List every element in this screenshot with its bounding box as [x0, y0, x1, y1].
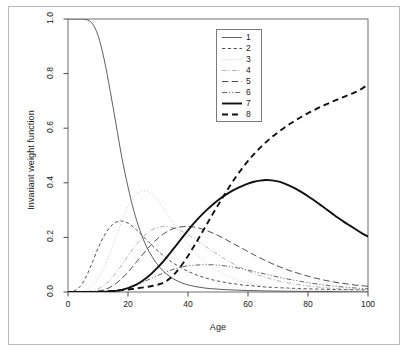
legend-item-3: 3	[217, 54, 263, 65]
legend-item-7: 7	[217, 98, 263, 109]
y-axis-title: Invariant weight function	[26, 65, 36, 255]
legend-line-sample-6	[221, 87, 243, 98]
legend-line-sample-7	[221, 98, 243, 109]
x-tick-label: 60	[233, 299, 263, 309]
legend-line-sample-4	[221, 65, 243, 76]
legend-item-1: 1	[217, 32, 263, 43]
y-tick-label: 0.6	[45, 115, 55, 139]
legend-label-7: 7	[246, 98, 251, 109]
y-tick-label: 0.0	[45, 279, 55, 303]
x-tick-label: 100	[353, 299, 383, 309]
legend-item-5: 5	[217, 76, 263, 87]
series-line-4	[68, 226, 368, 292]
legend-item-6: 6	[217, 87, 263, 98]
legend-label-3: 3	[246, 54, 251, 65]
legend-line-sample-2	[221, 43, 243, 54]
x-tick-label: 80	[293, 299, 323, 309]
legend-label-2: 2	[246, 43, 251, 54]
legend-item-8: 8	[217, 109, 263, 120]
legend-label-6: 6	[246, 87, 251, 98]
y-tick-label: 0.4	[45, 170, 55, 194]
x-tick-label: 40	[173, 299, 203, 309]
legend-line-sample-8	[221, 109, 243, 120]
x-axis-title: Age	[68, 322, 368, 332]
legend-line-sample-5	[221, 76, 243, 87]
legend-line-sample-3	[221, 54, 243, 65]
series-line-5	[68, 226, 368, 292]
x-tick-label: 20	[113, 299, 143, 309]
y-tick-label: 0.8	[45, 61, 55, 85]
legend-line-sample-1	[221, 32, 243, 43]
chart-legend: 12345678	[216, 29, 262, 122]
y-tick-label: 0.2	[45, 224, 55, 248]
series-line-2	[68, 221, 368, 292]
legend-label-5: 5	[246, 76, 251, 87]
series-line-7	[68, 180, 368, 292]
legend-item-2: 2	[217, 43, 263, 54]
legend-label-4: 4	[246, 65, 251, 76]
legend-label-1: 1	[246, 32, 251, 43]
legend-label-8: 8	[246, 109, 251, 120]
y-tick-label: 1.0	[45, 6, 55, 30]
x-tick-label: 0	[53, 299, 83, 309]
legend-item-4: 4	[217, 65, 263, 76]
